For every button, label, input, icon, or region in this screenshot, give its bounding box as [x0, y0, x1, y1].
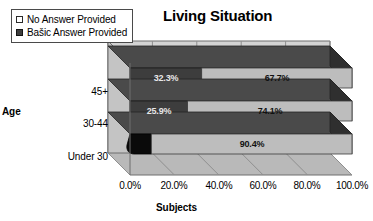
- bar-label-under30-noanswer: 90.4%: [197, 139, 307, 149]
- y-axis-category-label: 30-44: [18, 118, 108, 129]
- x-axis-tick-label: 0.0%: [107, 180, 153, 191]
- plot-floor: [108, 153, 352, 175]
- empty-square-icon: [16, 16, 23, 23]
- x-axis-tick-label: 100.0%: [329, 180, 373, 191]
- y-axis-title: Age: [2, 106, 38, 117]
- legend-item-label: Bašic Answer Provided: [27, 27, 127, 38]
- chart-title: Living Situation: [163, 7, 272, 24]
- x-axis-tick-label: 40.0%: [196, 180, 242, 191]
- legend-item-label: No Answer Provided: [27, 14, 116, 25]
- y-axis-category-label: 45+: [18, 86, 108, 97]
- filled-square-icon: [16, 29, 23, 36]
- legend-item-basic-answer[interactable]: Bašic Answer Provided: [16, 26, 127, 39]
- x-axis-tick-label: 80.0%: [284, 180, 330, 191]
- chart-legend: No Answer Provided Bašic Answer Provided: [11, 9, 133, 43]
- bar-label-45plus-noanswer: 67.7%: [222, 73, 332, 83]
- bar-label-30-44-noanswer: 74.1%: [215, 106, 325, 116]
- legend-item-no-answer[interactable]: No Answer Provided: [16, 13, 127, 26]
- y-axis-category-label: Under 30: [18, 151, 108, 162]
- x-axis-title: Subjects: [0, 202, 353, 213]
- bar-45plus-top-face: [108, 46, 352, 68]
- bar-label-30-44-basic: 25.9%: [130, 106, 188, 116]
- x-axis-tick-label: 20.0%: [151, 180, 197, 191]
- x-axis-tick-label: 60.0%: [240, 180, 286, 191]
- bar-label-45plus-basic: 32.3%: [136, 73, 196, 83]
